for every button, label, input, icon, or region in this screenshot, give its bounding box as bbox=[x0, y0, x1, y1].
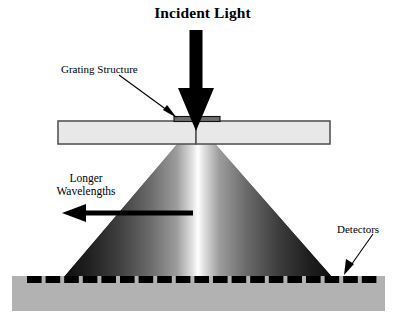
detector-pixel bbox=[362, 276, 377, 283]
longer-wavelengths-line-2: Wavelengths bbox=[56, 185, 115, 197]
detector-pixel bbox=[306, 276, 321, 283]
longer-wavelengths-label: LongerWavelengths bbox=[38, 172, 134, 198]
detectors-leader-arrow bbox=[344, 234, 373, 275]
diagram-canvas bbox=[0, 0, 405, 325]
detector-pixel bbox=[176, 276, 191, 283]
detector-pixel bbox=[64, 276, 79, 283]
detector-pixel bbox=[27, 276, 42, 283]
detector-pixel bbox=[101, 276, 116, 283]
detector-pixel bbox=[46, 276, 61, 283]
detector-pixel bbox=[250, 276, 265, 283]
detector-pixel bbox=[83, 276, 98, 283]
detector-pixel bbox=[213, 276, 228, 283]
detector-pixel bbox=[287, 276, 302, 283]
incident-light-arrow bbox=[178, 30, 214, 131]
detector-pixel bbox=[120, 276, 135, 283]
detector-pixel bbox=[139, 276, 154, 283]
grating-structure-leader-arrow bbox=[119, 75, 177, 118]
detector-pixel bbox=[232, 276, 247, 283]
detector-pixel bbox=[343, 276, 358, 283]
grating-spectrometer-diagram: Incident Light Grating Structure LongerW… bbox=[0, 0, 405, 325]
grating-structure-label: Grating Structure bbox=[61, 63, 138, 75]
longer-wavelengths-line-1: Longer bbox=[69, 172, 102, 184]
detector-pixel bbox=[269, 276, 284, 283]
dispersed-light-cone bbox=[64, 122, 332, 278]
detector-pixel bbox=[194, 276, 209, 283]
detector-pixel bbox=[157, 276, 172, 283]
detectors-label: Detectors bbox=[337, 223, 379, 235]
page-title: Incident Light bbox=[0, 4, 405, 21]
detector-pixel bbox=[325, 276, 340, 283]
